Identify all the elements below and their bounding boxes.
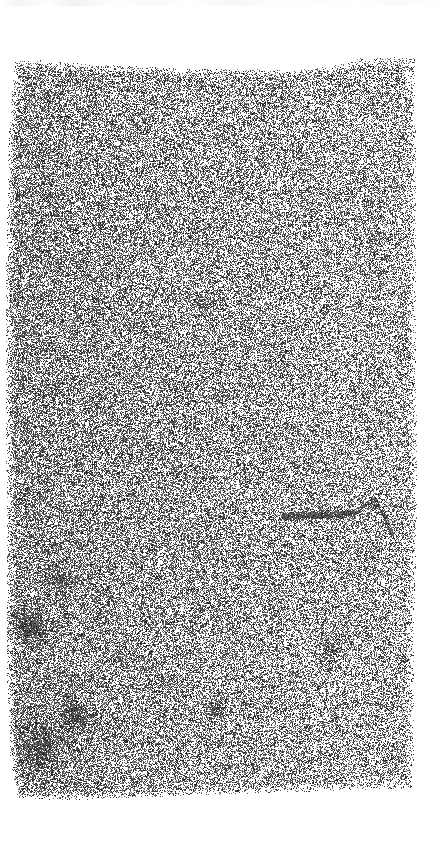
scan-page — [0, 0, 448, 854]
noise-field-canvas — [0, 0, 448, 854]
